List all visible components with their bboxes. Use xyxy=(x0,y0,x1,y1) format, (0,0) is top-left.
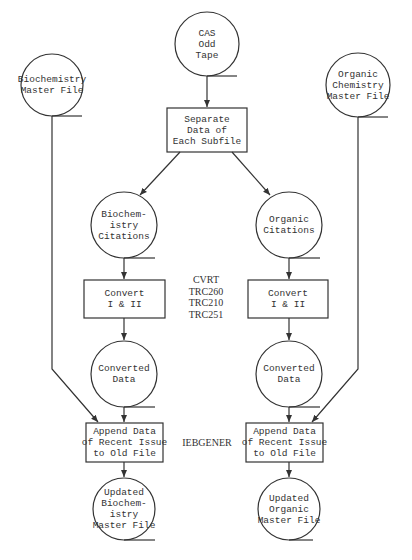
organic-master-label: Organic Chemistry Master File xyxy=(326,53,390,117)
organic-citations-label: Organic Citations xyxy=(256,192,322,258)
updated-organic-label: Updated Organic Master File xyxy=(258,478,320,540)
convert-left-label: Convert I & II xyxy=(84,280,165,318)
separate-label: Separate Data of Each Subfile xyxy=(167,108,247,152)
convert-programs-label: CVRT TRC260 TRC210 TRC251 xyxy=(176,274,236,320)
biochem-master-label: Biochemistry Master File xyxy=(21,54,83,116)
edge-separate-to-biochem xyxy=(140,152,180,195)
converted-left-label: Converted Data xyxy=(91,341,157,407)
converted-right-label: Converted Data xyxy=(256,341,322,407)
cas-tape-label: CAS Odd Tape xyxy=(175,12,239,76)
updated-biochem-label: Updated Biochem- istry Master File xyxy=(93,478,155,540)
edge-separate-to-organic xyxy=(232,152,270,195)
biochem-citations-label: Biochem- istry Citations xyxy=(91,192,157,258)
convert-right-label: Convert I & II xyxy=(248,280,328,318)
append-right-label: Append Data of Recent Issue to Old File xyxy=(246,423,323,462)
append-program-label: IEBGENER xyxy=(172,437,242,449)
append-left-label: Append Data of Recent Issue to Old File xyxy=(86,423,163,462)
